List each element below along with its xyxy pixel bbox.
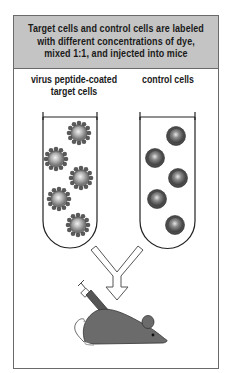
control-cell: [169, 169, 188, 188]
peptide-coated-cell: [69, 166, 94, 191]
diagram-graphics: [0, 0, 229, 373]
control-cell: [146, 149, 165, 168]
peptide-coated-cell: [67, 121, 92, 146]
control-cell: [167, 127, 186, 146]
peptide-coated-cell: [47, 187, 72, 212]
control-cells-tube: [140, 112, 195, 249]
peptide-coated-cell: [44, 147, 69, 172]
peptide-coated-cell: [66, 213, 91, 238]
mouse-icon: [75, 309, 167, 345]
target-cells-tube: [43, 112, 97, 248]
control-cell: [148, 190, 167, 209]
mix-arrow-icon: [91, 246, 143, 300]
control-cell: [166, 216, 185, 235]
